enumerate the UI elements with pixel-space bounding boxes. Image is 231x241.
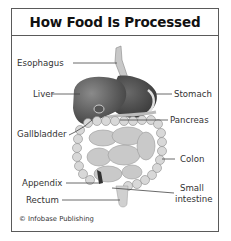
label-colon: Colon: [180, 154, 204, 164]
label-esophagus: Esophagus: [17, 58, 64, 68]
copyright-credit: © Infobase Publishing: [19, 215, 94, 223]
small-intestine-shape: [87, 127, 155, 182]
label-gallbladder: Gallbladder: [17, 129, 67, 139]
label-liver: Liver: [33, 89, 54, 99]
label-small-intestine-line1: Small: [180, 183, 204, 193]
label-small-intestine-line2: intestine: [175, 194, 212, 204]
label-stomach: Stomach: [174, 89, 212, 99]
gallbladder-shape: [94, 105, 104, 113]
label-rectum: Rectum: [26, 195, 59, 205]
label-pancreas: Pancreas: [170, 115, 209, 125]
label-appendix: Appendix: [22, 178, 62, 188]
